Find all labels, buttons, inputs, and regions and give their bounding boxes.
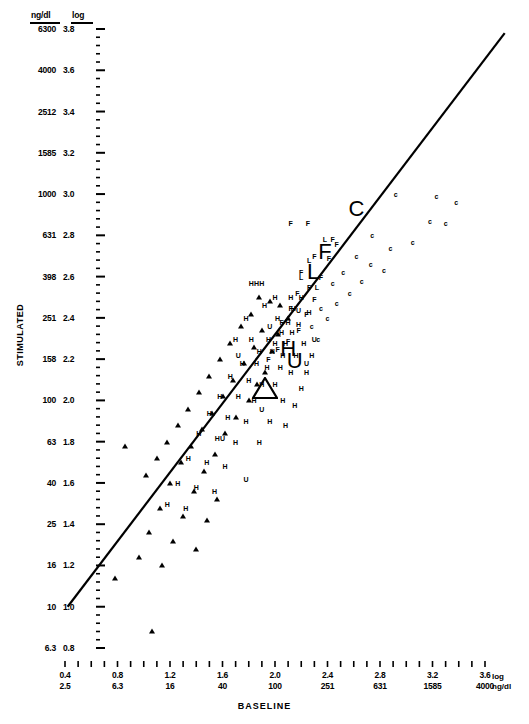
- data-point-c: c: [389, 244, 393, 251]
- y-tick-ngdl: 16: [22, 560, 56, 570]
- data-point-triangle: [269, 348, 275, 353]
- x-tick-ngdl: 6.3: [98, 681, 138, 691]
- x-tick-ngdl: 251: [308, 681, 348, 691]
- scatter-plot-canvas: ng/dl log STIMULATED BASELINE log ng/dl …: [0, 0, 529, 724]
- y-tick-ngdl: 1585: [22, 148, 56, 158]
- data-point-triangle: [180, 513, 186, 518]
- data-point-triangle: [285, 315, 291, 320]
- data-point-triangle: [154, 456, 160, 461]
- data-point-H: H: [280, 397, 285, 404]
- y-tick-ngdl: 4000: [22, 65, 56, 75]
- data-point-triangle: [220, 394, 226, 399]
- y-tick-log: 1.2: [63, 560, 93, 570]
- group-centroid-U: U: [287, 350, 303, 372]
- data-point-triangle: [214, 497, 220, 502]
- data-point-triangle: [267, 299, 273, 304]
- data-point-H: H: [299, 385, 304, 392]
- x-tick-ngdl: 16: [150, 681, 190, 691]
- data-point-H: H: [257, 347, 262, 354]
- data-point-H: H: [233, 438, 238, 445]
- data-point-F: F: [275, 345, 279, 352]
- data-point-F: F: [306, 219, 310, 226]
- data-point-H: H: [278, 364, 283, 371]
- data-point-H: H: [299, 294, 304, 301]
- data-point-triangle: [238, 324, 244, 329]
- data-point-F: F: [266, 356, 270, 363]
- data-point-c: c: [369, 261, 373, 268]
- y-tick-log: 3.4: [63, 107, 93, 117]
- x-tick-log: 2.0: [255, 670, 295, 680]
- x-tick-ngdl: 40: [203, 681, 243, 691]
- y-tick-ngdl: 6300: [22, 24, 56, 34]
- data-point-H: H: [290, 329, 295, 336]
- data-point-U: U: [304, 360, 309, 367]
- x-tick-log: 1.2: [150, 670, 190, 680]
- data-point-H: H: [272, 339, 277, 346]
- data-point-H: H: [165, 500, 170, 507]
- x-tick-ngdl: 2.5: [45, 681, 85, 691]
- data-point-F: F: [296, 327, 300, 334]
- y-tick-log: 1.4: [63, 519, 93, 529]
- data-point-H: H: [233, 335, 238, 342]
- data-point-U: U: [244, 475, 249, 482]
- data-point-triangle: [201, 468, 207, 473]
- data-point-triangle: [122, 443, 128, 448]
- y-tick-log: 3.2: [63, 148, 93, 158]
- y-tick-log: 3.6: [63, 65, 93, 75]
- data-point-c: c: [316, 335, 320, 342]
- y-tick-log: 2.0: [63, 395, 93, 405]
- data-point-H: H: [301, 339, 306, 346]
- data-point-triangle: [222, 431, 228, 436]
- data-point-H: H: [212, 488, 217, 495]
- data-point-H: H: [275, 314, 280, 321]
- x-tick-log: 3.6: [465, 670, 505, 680]
- data-point-H: H: [266, 335, 271, 342]
- data-point-F: F: [289, 219, 293, 226]
- y-tick-log: 1.6: [63, 478, 93, 488]
- data-point-H: H: [257, 438, 262, 445]
- y-tick-ngdl: 100: [22, 395, 56, 405]
- data-point-U: U: [296, 306, 301, 313]
- data-point-triangle: [259, 328, 265, 333]
- data-point-triangle: [277, 303, 283, 308]
- data-point-H: H: [283, 422, 288, 429]
- data-point-triangle: [143, 472, 149, 477]
- y-tick-log: 0.8: [63, 643, 93, 653]
- group-centroid-L: L: [307, 261, 319, 283]
- data-point-triangle: [167, 480, 173, 485]
- data-point-triangle: [146, 530, 152, 535]
- data-point-c: c: [319, 304, 323, 311]
- data-point-H: H: [309, 352, 314, 359]
- y-tick-ngdl: 25: [22, 519, 56, 529]
- y-tick-ngdl: 631: [22, 230, 56, 240]
- data-point-c: c: [428, 217, 432, 224]
- data-point-H: H: [288, 294, 293, 301]
- data-point-H: H: [307, 308, 312, 315]
- data-point-triangle: [262, 369, 268, 374]
- data-point-H: H: [223, 463, 228, 470]
- data-point-c: c: [326, 314, 330, 321]
- y-tick-log: 3.0: [63, 189, 93, 199]
- y-tick-log: 1.8: [63, 437, 93, 447]
- group-centroid-F: F: [318, 241, 331, 263]
- y-tick-log: 2.2: [63, 354, 93, 364]
- data-point-c: c: [331, 279, 335, 286]
- data-point-triangle: [164, 439, 170, 444]
- data-point-triangle: [212, 452, 218, 457]
- y-tick-ngdl: 398: [22, 272, 56, 282]
- data-point-triangle: [178, 460, 184, 465]
- x-tick-log: 3.2: [413, 670, 453, 680]
- data-point-H: H: [292, 401, 297, 408]
- data-point-triangle: [191, 489, 197, 494]
- data-point-H: H: [259, 279, 264, 286]
- data-point-triangle: [149, 629, 155, 634]
- x-tick-log: 1.6: [203, 670, 243, 680]
- y-tick-ngdl: 1000: [22, 189, 56, 199]
- data-point-triangle: [230, 377, 236, 382]
- data-point-F: F: [335, 240, 339, 247]
- data-point-triangle: [112, 575, 118, 580]
- data-point-H: H: [183, 504, 188, 511]
- x-tick-log: 2.4: [308, 670, 348, 680]
- data-point-triangle: [233, 414, 239, 419]
- data-point-H: H: [225, 413, 230, 420]
